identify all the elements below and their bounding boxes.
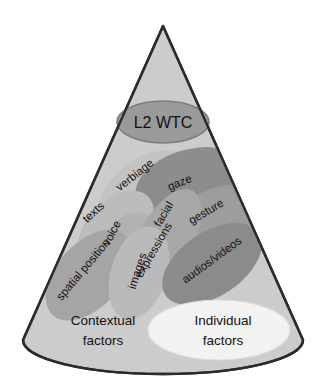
label-individual-factors-line1: Individual xyxy=(194,313,251,328)
l2-wtc-cone-figure: L2 WTC verbiage gaze gesture texts voice… xyxy=(0,0,325,390)
label-individual-factors-line2: factors xyxy=(203,333,244,348)
cone-diagram-canvas: L2 WTC verbiage gaze gesture texts voice… xyxy=(0,0,325,390)
label-contextual-factors-line2: factors xyxy=(83,333,124,348)
label-l2-wtc: L2 WTC xyxy=(134,114,193,131)
region-individual-factors xyxy=(148,300,290,360)
label-contextual-factors-line1: Contextual xyxy=(71,313,136,328)
